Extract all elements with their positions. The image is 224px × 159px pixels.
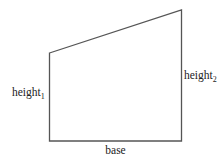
right-height-label: height2 — [184, 69, 217, 84]
right-height-label-text: height — [184, 69, 214, 82]
left-height-label-subscript: 1 — [41, 92, 45, 101]
right-height-label-subscript: 2 — [213, 75, 217, 84]
left-height-label: height1 — [12, 86, 45, 101]
trapezoid-diagram: height1 height2 base — [0, 0, 224, 159]
base-label: base — [105, 144, 125, 156]
trapezoid-shape — [50, 10, 182, 141]
left-height-label-text: height — [12, 86, 42, 99]
